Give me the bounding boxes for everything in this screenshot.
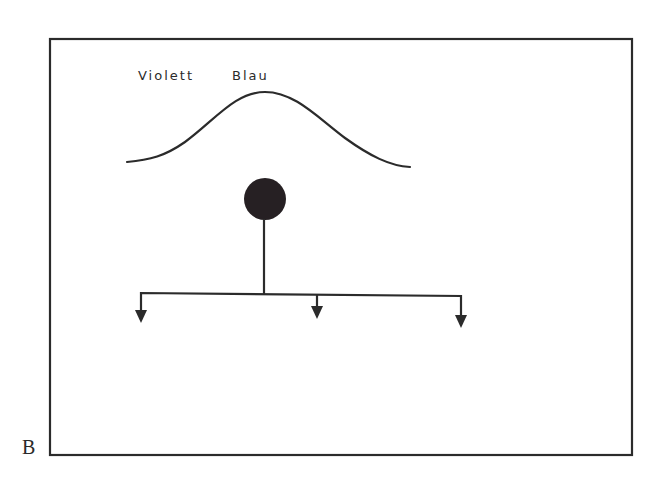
spectrum-curve [127, 92, 410, 167]
label-violett: Violett [138, 68, 194, 83]
right-arrow-icon [455, 315, 467, 328]
frame-border [50, 39, 632, 455]
left-arrow-icon [135, 310, 147, 323]
diagram-canvas: Violett Blau [0, 0, 660, 488]
branch-bar [141, 293, 461, 318]
source-dot [244, 178, 286, 220]
label-blau: Blau [232, 68, 269, 83]
middle-arrow-icon [311, 306, 323, 319]
